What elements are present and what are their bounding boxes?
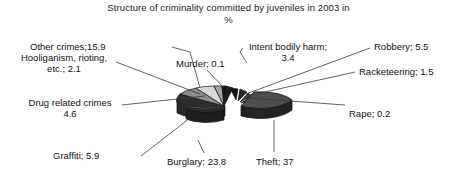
leader-racketeering [247,72,355,96]
label-graffiti: Graffiti; 5.9 [53,150,99,161]
pie-chart-figure: Structure of criminality committed by ju… [0,0,457,174]
label-rape: Rape; 0.2 [349,108,390,119]
label-intent-line-1: Intent bodily harm; [233,41,343,52]
label-intent-line-2: 3.4 [233,52,343,63]
leader-lines [0,0,457,174]
label-burglary: Burglary; 23.8 [167,156,226,167]
label-robbery: Robbery; 5.5 [374,41,428,52]
leader-drug-related [122,96,205,105]
label-drug-related-line-1: Drug related crimes [14,97,126,108]
leader-rape [248,98,345,105]
label-racketeering: Racketeering; 1.5 [359,66,433,77]
leader-graffiti [141,118,190,156]
leader-burglary [198,140,204,153]
label-murder: Murder; 0.1 [176,58,225,69]
label-other-crimes: Other crimes;15.9 [30,41,106,52]
label-drug-related-line-2: 4.6 [14,108,126,119]
label-hooliganism-line-1: Hooliganism, rioting, [4,52,124,63]
label-hooliganism-line-2: etc.; 2.1 [4,63,124,74]
label-theft: Theft; 37 [256,156,294,167]
leader-murder [207,70,224,88]
